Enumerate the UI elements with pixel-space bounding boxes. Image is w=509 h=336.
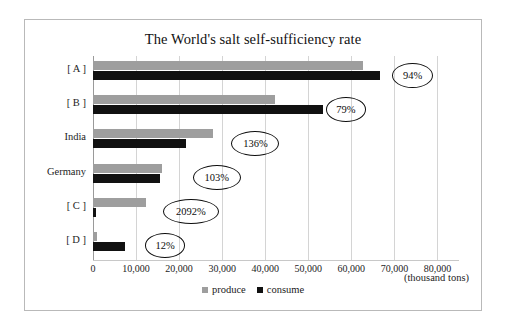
callout-94pct: 94%: [392, 63, 433, 88]
bar-row: Germany: [93, 159, 459, 193]
category-label: Germany: [47, 166, 86, 177]
callout-2092pct: 2092%: [163, 199, 219, 224]
bar-produce: [93, 198, 146, 207]
bar-row: [ C ]: [93, 193, 459, 227]
category-label: [ A ]: [67, 63, 86, 74]
legend-label: produce: [212, 284, 246, 295]
chart-legend: produceconsume: [25, 284, 481, 295]
callout-79pct: 79%: [326, 97, 367, 122]
bar-consume: [93, 208, 96, 217]
bar-consume: [93, 174, 160, 183]
category-label: [ D ]: [66, 234, 86, 245]
bar-consume: [93, 105, 323, 114]
legend-label: consume: [267, 284, 304, 295]
bar-consume: [93, 242, 125, 251]
legend-item-produce: produce: [202, 284, 246, 295]
bar-produce: [93, 232, 97, 241]
plot-area: [ A ][ B ]IndiaGermany[ C ][ D ] 94%79%1…: [93, 56, 459, 261]
legend-item-consume: consume: [257, 284, 304, 295]
category-label: India: [64, 131, 86, 142]
category-label: [ C ]: [67, 200, 86, 211]
xtick-label: 20,000: [165, 263, 193, 274]
callout-103pct: 103%: [193, 165, 241, 190]
xtick-label: 10,000: [122, 263, 150, 274]
bar-produce: [93, 164, 162, 173]
chart-frame: The World's salt self-sufficiency rate […: [24, 19, 482, 311]
unit-label: (thousand tons): [404, 272, 469, 283]
bar-produce: [93, 129, 213, 138]
xtick-label: 50,000: [295, 263, 323, 274]
legend-swatch-icon: [257, 287, 263, 293]
bar-row: [ B ]: [93, 90, 459, 124]
xtick-label: 30,000: [208, 263, 236, 274]
category-label: [ B ]: [67, 97, 86, 108]
xtick-label: 0: [91, 263, 96, 274]
xtick-label: 60,000: [338, 263, 366, 274]
bar-consume: [93, 71, 380, 80]
legend-swatch-icon: [202, 287, 208, 293]
bar-produce: [93, 61, 363, 70]
bar-consume: [93, 139, 186, 148]
callout-136pct: 136%: [231, 131, 279, 156]
xtick-label: 40,000: [251, 263, 279, 274]
bar-produce: [93, 95, 275, 104]
chart-title: The World's salt self-sufficiency rate: [25, 31, 481, 48]
